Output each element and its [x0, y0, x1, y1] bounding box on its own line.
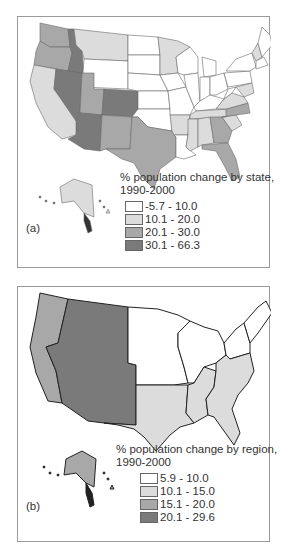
legend-swatch	[125, 227, 143, 238]
legend-swatch	[125, 201, 143, 212]
legend-b: % population change by region, 1990-2000…	[116, 443, 277, 524]
legend-title-line2: 1990-2000	[116, 456, 277, 469]
legend-swatch	[140, 473, 158, 484]
legend-swatch	[140, 486, 158, 497]
legend-label: 5.9 - 10.0	[160, 472, 209, 485]
state-sd	[128, 55, 160, 75]
legend-item: -5.7 - 10.0	[125, 200, 274, 213]
legend-a: % population change by state, 1990-2000 …	[120, 171, 274, 252]
panel-label-a: (a)	[26, 222, 40, 234]
legend-title-line1: % population change by state,	[120, 171, 274, 184]
legend-label: 20.1 - 30.0	[145, 226, 200, 239]
region-new-england	[244, 301, 271, 343]
state-ar	[170, 115, 190, 135]
legend-label: 20.1 - 29.6	[160, 511, 215, 524]
legend-title-line2: 1990-2000	[120, 184, 274, 197]
legend-label: 10.1 - 15.0	[160, 485, 215, 498]
alaska-inset	[39, 179, 110, 233]
legend-label: 30.1 - 66.3	[145, 239, 200, 252]
legend-title-line1: % population change by region,	[116, 443, 277, 456]
state-nm	[100, 115, 132, 151]
legend-item: 20.1 - 29.6	[140, 511, 277, 524]
legend-item: 10.1 - 15.0	[140, 485, 277, 498]
legend-item: 20.1 - 30.0	[125, 226, 274, 239]
legend-swatch	[140, 512, 158, 523]
legend-item: 30.1 - 66.3	[125, 239, 274, 252]
legend-item: 15.1 - 20.0	[140, 498, 277, 511]
state-ks	[138, 91, 170, 109]
state-nd	[128, 35, 160, 55]
region-south-atlantic	[206, 353, 254, 445]
map-panel-b: % population change by region, 1990-2000…	[17, 286, 270, 542]
panel-label-b: (b)	[26, 500, 40, 512]
state-mi	[202, 57, 216, 77]
state-co	[102, 89, 138, 117]
legend-label: 15.1 - 20.0	[160, 498, 215, 511]
state-ms	[186, 119, 198, 151]
legend-item: 5.9 - 10.0	[140, 472, 277, 485]
legend-label: -5.7 - 10.0	[145, 200, 197, 213]
legend-item: 10.1 - 20.0	[125, 213, 274, 226]
state-ny	[226, 53, 256, 71]
legend-swatch	[140, 499, 158, 510]
legend-swatch	[125, 240, 143, 251]
alaska-inset	[43, 451, 114, 507]
legend-swatch	[125, 214, 143, 225]
map-panel-a: % population change by state, 1990-2000 …	[17, 16, 270, 268]
legend-label: 10.1 - 20.0	[145, 213, 200, 226]
